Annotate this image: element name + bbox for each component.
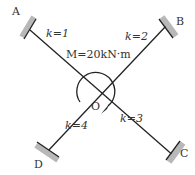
label-moment: M=20kN·m	[66, 49, 131, 60]
support-wall-a	[22, 17, 36, 39]
moment-arrowhead-icon	[101, 103, 110, 114]
label-support-c: C	[180, 148, 188, 159]
label-center-o: O	[91, 101, 100, 112]
support-wall-b	[159, 17, 176, 38]
label-support-b: B	[176, 16, 184, 27]
label-support-a: A	[12, 6, 20, 17]
label-stiffness-1: k=1	[46, 28, 69, 39]
label-stiffness-3: k=3	[120, 113, 143, 124]
structure-drawing	[0, 0, 195, 175]
label-stiffness-2: k=2	[125, 31, 148, 42]
diagram-canvas: A B C D k=1 k=2 k=3 k=4 M=20kN·m O	[0, 0, 195, 175]
label-stiffness-4: k=4	[65, 120, 88, 131]
label-support-d: D	[34, 159, 43, 170]
